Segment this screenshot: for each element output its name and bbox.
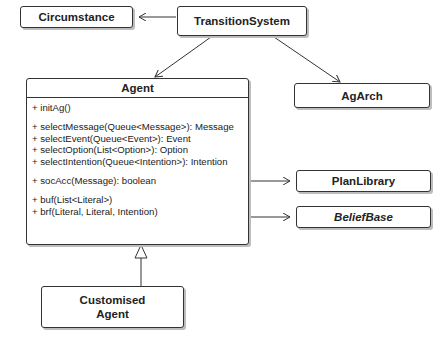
- method: + buf(List<Literal>): [32, 194, 243, 205]
- class-name: Agent: [27, 79, 248, 98]
- class-name: Circumstance: [38, 11, 114, 23]
- method: + initAg(): [32, 102, 243, 113]
- method: + selectEvent(Queue<Event>): Event: [32, 133, 243, 144]
- class-plan-library[interactable]: PlanLibrary: [296, 170, 431, 192]
- method: + brf(Literal, Literal, Intention): [32, 206, 243, 217]
- method-list: + initAg() + selectMessage(Queue<Message…: [27, 98, 248, 221]
- arrow-ts-agarch: [274, 37, 340, 82]
- method: + selectOption(List<Option>): Option: [32, 144, 243, 155]
- class-name: PlanLibrary: [332, 175, 395, 187]
- class-name: AgArch: [341, 90, 383, 102]
- class-transition-system[interactable]: TransitionSystem: [177, 6, 307, 36]
- class-belief-base[interactable]: BeliefBase: [296, 206, 431, 228]
- generalization-triangle: [135, 245, 147, 258]
- class-agarch[interactable]: AgArch: [294, 83, 430, 108]
- method: + selectMessage(Queue<Message>): Message: [32, 121, 243, 132]
- class-name-line1: Customised: [80, 293, 146, 307]
- class-name-line2: Agent: [96, 307, 129, 321]
- method: + socAcc(Message): boolean: [32, 175, 243, 186]
- method: + selectIntention(Queue<Intention>): Int…: [32, 156, 243, 167]
- arrow-ts-agent: [155, 37, 211, 77]
- class-name: TransitionSystem: [194, 15, 290, 27]
- class-name: BeliefBase: [334, 211, 393, 223]
- class-customised-agent[interactable]: Customised Agent: [41, 286, 184, 328]
- class-circumstance[interactable]: Circumstance: [20, 6, 133, 28]
- class-agent[interactable]: Agent + initAg() + selectMessage(Queue<M…: [26, 78, 249, 245]
